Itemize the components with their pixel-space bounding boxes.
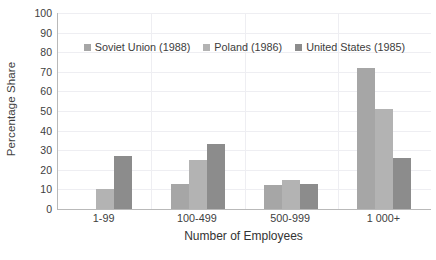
bar[interactable] — [171, 184, 189, 209]
y-axis-tick-label: 90 — [40, 27, 52, 39]
x-axis-title: Number of Employees — [57, 229, 430, 243]
legend-swatch-icon — [203, 44, 210, 51]
legend-item-label: United States (1985) — [306, 41, 405, 53]
x-axis-tick-label: 1 000+ — [367, 212, 400, 224]
bar[interactable] — [357, 68, 375, 209]
bar[interactable] — [264, 185, 282, 209]
y-axis-tick-label: 10 — [40, 183, 52, 195]
legend-item[interactable]: Poland (1986) — [203, 41, 282, 53]
y-axis-title-label: Percentage Share — [5, 62, 17, 156]
x-axis-title-label: Number of Employees — [184, 229, 303, 243]
y-axis-tick-label: 100 — [34, 7, 52, 19]
y-axis-tick-label: 60 — [40, 85, 52, 97]
bar[interactable] — [393, 158, 411, 209]
x-axis-tick-label: 100-499 — [177, 212, 217, 224]
y-axis-tick-label: 20 — [40, 164, 52, 176]
y-axis-tick-label: 50 — [40, 105, 52, 117]
y-axis-tick-labels: 1009080706050403020100 — [22, 13, 56, 209]
legend-item[interactable]: Soviet Union (1988) — [84, 41, 190, 53]
bar[interactable] — [207, 144, 225, 209]
x-axis-tick-label: 1-99 — [93, 212, 115, 224]
x-axis-tick-labels: 1-99100-499500-9991 000+ — [57, 212, 430, 228]
bar[interactable] — [300, 184, 318, 209]
y-axis-tick-label: 0 — [46, 203, 52, 215]
legend: Soviet Union (1988)Poland (1986)United S… — [58, 41, 431, 53]
legend-item-label: Poland (1986) — [214, 41, 282, 53]
bar[interactable] — [282, 180, 300, 209]
x-axis-tick-label: 500-999 — [270, 212, 310, 224]
y-axis-tick-label: 70 — [40, 66, 52, 78]
bar[interactable] — [96, 189, 114, 209]
bar-chart: Percentage Share 1009080706050403020100 … — [0, 0, 436, 260]
y-axis-tick-label: 30 — [40, 144, 52, 156]
legend-item-label: Soviet Union (1988) — [95, 41, 190, 53]
legend-item[interactable]: United States (1985) — [295, 41, 405, 53]
y-axis-tick-label: 40 — [40, 125, 52, 137]
bar[interactable] — [114, 156, 132, 209]
y-axis-title: Percentage Share — [0, 0, 22, 218]
legend-swatch-icon — [84, 44, 91, 51]
plot-area: Soviet Union (1988)Poland (1986)United S… — [57, 13, 431, 210]
bar[interactable] — [189, 160, 207, 209]
bar[interactable] — [375, 109, 393, 209]
y-axis-tick-label: 80 — [40, 46, 52, 58]
legend-swatch-icon — [295, 44, 302, 51]
